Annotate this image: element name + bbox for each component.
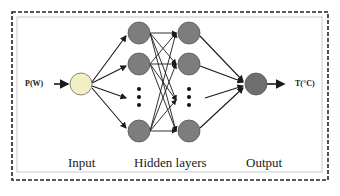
input-variable-label: P(W) (25, 79, 43, 88)
ellipsis-dot (187, 103, 191, 107)
input-caption: Input (68, 155, 95, 171)
output-caption: Output (246, 155, 282, 171)
hidden-node (128, 53, 150, 75)
hidden-node (128, 120, 150, 142)
hidden-layers-caption: Hidden layers (134, 155, 207, 171)
input-to-hidden1-edges (92, 36, 126, 128)
ellipsis-dot (187, 95, 191, 99)
hidden-node (128, 22, 150, 44)
ellipsis-dot (137, 103, 141, 107)
hidden-node (178, 120, 200, 142)
ellipsis-dot (137, 87, 141, 91)
hidden-node (178, 53, 200, 75)
hidden1-to-hidden2-edges (150, 33, 176, 131)
hidden-layer-2 (178, 22, 200, 142)
hidden2-to-output-edges (200, 36, 243, 128)
hidden-layer-1 (128, 22, 150, 142)
output-node (245, 73, 267, 95)
hidden-node (178, 22, 200, 44)
output-variable-label: T(°C) (295, 79, 315, 88)
ellipsis-dot (187, 87, 191, 91)
ellipsis-dot (137, 95, 141, 99)
input-node (70, 73, 92, 95)
